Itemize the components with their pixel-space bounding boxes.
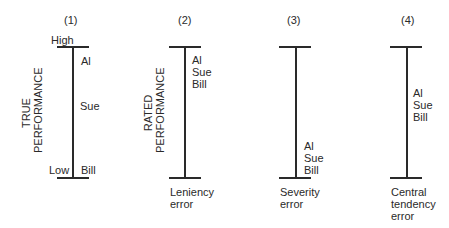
true-performance-axis-label: TRUE PERFORMANCE <box>20 73 44 153</box>
ratee-al: Al <box>192 54 212 66</box>
bottom-bar <box>279 177 311 179</box>
ratee-bill: Bill <box>304 164 324 176</box>
bottom-bar <box>390 177 422 179</box>
ratee-bill: Bill <box>413 111 433 123</box>
panel-2-number: (2) <box>178 14 191 26</box>
scale-line <box>184 47 186 178</box>
caption-line-2: error <box>280 198 320 210</box>
ratee-al: Al <box>304 140 324 152</box>
scale-line <box>72 47 74 178</box>
ratee-sue: Sue <box>413 99 433 111</box>
caption-line-2: tendency <box>391 198 436 210</box>
scale-line <box>406 47 408 178</box>
rated-performance-axis-label: RATED PERFORMANCE <box>142 73 166 153</box>
ratee-sue: Sue <box>304 152 324 164</box>
low-label: Low <box>49 164 69 176</box>
caption: Leniency error <box>170 186 214 210</box>
bottom-bar <box>169 177 201 179</box>
caption-line-3: error <box>391 210 436 222</box>
ratee-stack: Al Sue Bill <box>304 140 324 176</box>
caption-line-1: Central <box>391 186 436 198</box>
ratee-al: Al <box>413 87 433 99</box>
panel-1-number: (1) <box>64 14 77 26</box>
ratee-stack: Al Sue Bill <box>413 87 433 123</box>
caption: Central tendency error <box>391 186 436 222</box>
caption-line-2: error <box>170 198 214 210</box>
scale-line <box>295 47 297 178</box>
ratee-stack: Al Sue Bill <box>192 54 212 90</box>
ratee-al: Al <box>81 55 91 67</box>
high-label: High <box>51 34 74 46</box>
ratee-sue: Sue <box>80 100 100 112</box>
caption-line-1: Leniency <box>170 186 214 198</box>
ratee-sue: Sue <box>192 66 212 78</box>
axis-label-line-2: PERFORMANCE <box>154 73 166 153</box>
axis-label-line-2: PERFORMANCE <box>32 73 44 153</box>
caption: Severity error <box>280 186 320 210</box>
panel-3-number: (3) <box>287 14 300 26</box>
panel-4-number: (4) <box>401 14 414 26</box>
ratee-bill: Bill <box>81 164 96 176</box>
axis-label-line-1: RATED <box>142 73 154 153</box>
ratee-bill: Bill <box>192 78 212 90</box>
axis-label-line-1: TRUE <box>20 73 32 153</box>
bottom-bar <box>57 177 89 179</box>
caption-line-1: Severity <box>280 186 320 198</box>
